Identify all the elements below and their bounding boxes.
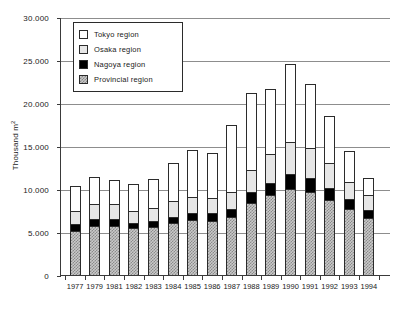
x-tick-label: 1977 — [67, 282, 84, 291]
bar-segment — [324, 200, 335, 275]
x-tick-mark — [104, 276, 105, 280]
x-tick-mark — [85, 276, 86, 280]
bar-segment — [187, 213, 198, 221]
bar-segment — [109, 219, 120, 227]
bar-segment — [265, 89, 276, 154]
bar-segment — [363, 218, 374, 275]
bar-stack[interactable] — [187, 150, 198, 275]
bar-segment — [344, 199, 355, 208]
bar-segment — [70, 231, 81, 275]
y-tick-label: 0 — [44, 272, 49, 281]
bar-chart: Thousand m2 05.00010.00015.00020.00025.0… — [0, 0, 397, 311]
bar-segment — [207, 198, 218, 213]
y-tick-mark — [57, 276, 61, 277]
bar-segment — [285, 174, 296, 189]
bar-stack[interactable] — [265, 89, 276, 275]
bar-segment — [89, 177, 100, 205]
x-tick-mark — [183, 276, 184, 280]
legend-item-label: Tokyo region — [94, 30, 139, 39]
bar-stack[interactable] — [89, 177, 100, 275]
bar-segment — [89, 226, 100, 275]
bar-segment — [363, 195, 374, 210]
x-tick-mark — [124, 276, 125, 280]
legend-item-label: Osaka region — [94, 45, 141, 54]
legend-item[interactable]: Provincial region — [79, 72, 177, 87]
x-tick-mark — [261, 276, 262, 280]
x-tick-label: 1994 — [361, 282, 378, 291]
y-tick-label: 5.000 — [28, 229, 49, 238]
y-axis-title-text: Thousand m — [11, 124, 20, 170]
bar-segment — [168, 217, 179, 224]
bar-segment — [265, 195, 276, 275]
bar-segment — [324, 116, 335, 163]
y-axis-title-superscript: 2 — [10, 120, 16, 124]
legend-item[interactable]: Osaka region — [79, 42, 177, 57]
bar-segment — [168, 223, 179, 275]
bar-segment — [363, 210, 374, 218]
bar-segment — [344, 151, 355, 182]
bar-segment — [246, 93, 257, 170]
bar-stack[interactable] — [324, 116, 335, 275]
bar-stack[interactable] — [207, 153, 218, 275]
bar-segment — [109, 204, 120, 219]
y-tick-label: 10.000 — [23, 186, 49, 195]
bar-segment — [265, 183, 276, 195]
bar-segment — [187, 150, 198, 196]
bar-segment — [128, 228, 139, 275]
bar-segment — [285, 189, 296, 275]
legend-item[interactable]: Nagoya region — [79, 57, 177, 72]
legend-item[interactable]: Tokyo region — [79, 27, 177, 42]
bar-segment — [305, 84, 316, 148]
x-tick-mark — [359, 276, 360, 280]
legend-item-label: Nagoya region — [94, 60, 145, 69]
x-tick-mark — [65, 276, 66, 280]
bar-stack[interactable] — [128, 184, 139, 275]
bar-segment — [344, 209, 355, 275]
x-tick-mark — [281, 276, 282, 280]
bar-segment — [148, 227, 159, 275]
bar-stack[interactable] — [344, 151, 355, 275]
bar-stack[interactable] — [305, 84, 316, 275]
bar-segment — [226, 192, 237, 209]
x-tick-mark — [144, 276, 145, 280]
x-tick-mark — [339, 276, 340, 280]
x-tick-label: 1991 — [302, 282, 319, 291]
x-tick-label: 1982 — [126, 282, 143, 291]
y-axis-title: Thousand m2 — [10, 75, 21, 215]
bar-stack[interactable] — [285, 64, 296, 275]
x-tick-label: 1987 — [223, 282, 240, 291]
x-tick-mark — [379, 276, 380, 280]
bar-stack[interactable] — [109, 180, 120, 275]
bar-stack[interactable] — [226, 125, 237, 275]
bar-segment — [168, 201, 179, 216]
bar-stack[interactable] — [70, 186, 81, 275]
y-tick-label: 30.000 — [23, 14, 49, 23]
bar-segment — [246, 192, 257, 202]
x-tick-label: 1979 — [86, 282, 103, 291]
bar-segment — [109, 180, 120, 205]
bar-segment — [285, 64, 296, 141]
bar-segment — [148, 208, 159, 221]
x-tick-label: 1983 — [145, 282, 162, 291]
bar-segment — [363, 178, 374, 196]
bar-segment — [285, 142, 296, 175]
bar-stack[interactable] — [168, 163, 179, 275]
x-tick-mark — [222, 276, 223, 280]
bar-stack[interactable] — [148, 179, 159, 275]
bar-segment — [305, 192, 316, 275]
bar-segment — [207, 153, 218, 198]
x-tick-mark — [163, 276, 164, 280]
bar-segment — [207, 221, 218, 275]
bar-segment — [128, 211, 139, 223]
x-tick-label: 1986 — [204, 282, 221, 291]
legend-item-label: Provincial region — [94, 75, 153, 84]
bar-segment — [168, 163, 179, 201]
bar-stack[interactable] — [246, 93, 257, 275]
bar-segment — [207, 213, 218, 221]
bar-segment — [89, 219, 100, 226]
bar-segment — [226, 209, 237, 218]
bar-segment — [305, 178, 316, 192]
bar-stack[interactable] — [363, 178, 374, 275]
x-tick-mark — [320, 276, 321, 280]
bar-segment — [324, 163, 335, 188]
